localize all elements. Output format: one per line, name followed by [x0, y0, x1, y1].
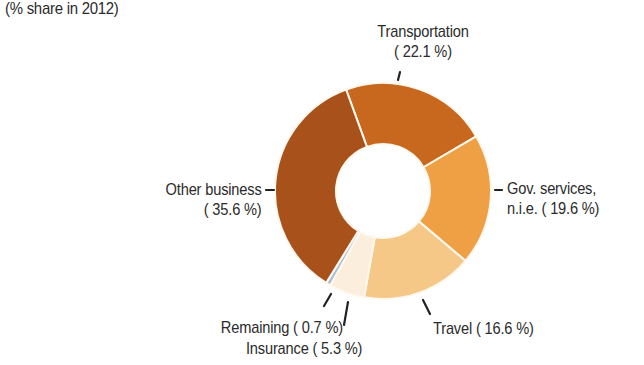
label-transportation-name: Transportation [376, 22, 471, 42]
label-travel-text: Travel ( 16.6 %) [433, 319, 534, 339]
label-insurance: Insurance ( 5.3 %) [246, 339, 362, 359]
leader-line-transportation [398, 72, 400, 80]
label-travel: Travel ( 16.6 %) [433, 319, 534, 339]
leader-line-travel [423, 300, 430, 314]
label-gov-services: Gov. services, n.i.e. ( 19.6 %) [507, 179, 599, 219]
label-transportation-value: ( 22.1 %) [376, 42, 471, 62]
label-remaining: Remaining ( 0.7 %) [221, 318, 343, 338]
label-other-value: ( 35.6 %) [166, 200, 262, 220]
label-other-business: Other business ( 35.6 %) [166, 180, 262, 220]
label-transportation: Transportation ( 22.1 %) [376, 22, 471, 62]
leader-line-remaining [324, 294, 331, 306]
label-gov-value: n.i.e. ( 19.6 %) [507, 199, 599, 219]
donut-slices [275, 83, 491, 299]
label-remaining-text: Remaining ( 0.7 %) [221, 318, 343, 338]
label-other-name: Other business [166, 180, 262, 200]
label-insurance-text: Insurance ( 5.3 %) [246, 339, 362, 359]
leader-line-insurance [344, 302, 348, 325]
label-gov-name: Gov. services, [507, 179, 599, 199]
